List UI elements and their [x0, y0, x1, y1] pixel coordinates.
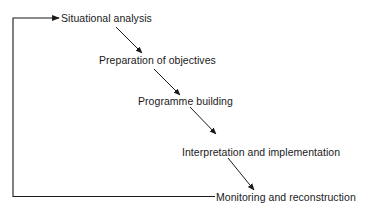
step-interpretation-and-implementation: Interpretation and implementation: [182, 146, 340, 158]
step-preparation-of-objectives: Preparation of objectives: [99, 54, 216, 66]
flow-connectors: [0, 0, 372, 217]
arrow-step3-to-step4: [190, 107, 216, 134]
feedback-loop-arrow: [13, 18, 215, 197]
arrow-step2-to-step3: [154, 69, 180, 95]
step-monitoring-and-reconstruction: Monitoring and reconstruction: [216, 191, 356, 203]
arrow-step4-to-step5: [228, 158, 254, 190]
step-programme-building: Programme building: [138, 95, 233, 107]
step-situational-analysis: Situational analysis: [61, 12, 152, 24]
arrow-step1-to-step2: [116, 27, 142, 53]
